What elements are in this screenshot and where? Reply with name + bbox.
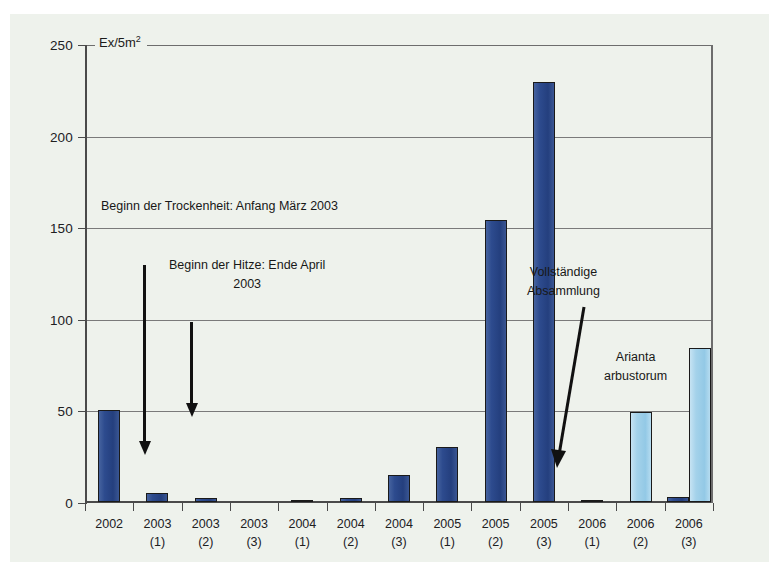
annotation-absammlung: Vollständige Absammlung (527, 263, 600, 302)
bar-2006(1)-dark-blue-series (581, 500, 603, 502)
x-tick-5 (327, 503, 328, 511)
x-label-replicate: (2) (337, 533, 365, 551)
x-label-replicate: (2) (482, 533, 510, 551)
annotation-hitze: Beginn der Hitze: Ende April 2003 (169, 256, 325, 295)
x-tick-label-2005(3): 2005(3) (530, 515, 558, 551)
x-tick-label-2006(3): 2006(3) (675, 515, 703, 551)
x-label-year: 2005 (482, 517, 510, 531)
bar-2003(1)-dark-blue-series (146, 493, 168, 502)
x-label-year: 2003 (144, 517, 172, 531)
y-tick-label-150: 150 (50, 221, 73, 236)
x-label-year: 2003 (240, 517, 268, 531)
x-tick-3 (230, 503, 231, 511)
bar-2004(1)-dark-blue-series (291, 500, 313, 502)
x-label-replicate: (3) (385, 533, 413, 551)
y-axis-units-exponent: 2 (136, 34, 141, 44)
arrow-hitze-icon (190, 322, 193, 404)
y-tick-label-250: 250 (50, 38, 73, 53)
plot-area: 050100150200250 Ex/5m2 20022003(1)2003(2… (85, 45, 713, 503)
x-label-replicate: (3) (240, 533, 268, 551)
x-label-year: 2003 (192, 517, 220, 531)
annotation-trockenheit: Beginn der Trockenheit: Anfang März 2003 (101, 197, 338, 216)
x-label-year: 2005 (433, 517, 461, 531)
x-tick-label-2003(3): 2003(3) (240, 515, 268, 551)
x-tick-4 (278, 503, 279, 511)
x-label-year: 2005 (530, 517, 558, 531)
x-label-replicate: (1) (433, 533, 461, 551)
x-tick-label-2006(1): 2006(1) (578, 515, 606, 551)
y-tick-label-200: 200 (50, 129, 73, 144)
x-label-replicate: (3) (530, 533, 558, 551)
gridline-200 (85, 137, 713, 138)
x-label-replicate: (1) (144, 533, 172, 551)
bar-2003(2)-dark-blue-series (195, 498, 217, 502)
x-tick-label-2005(2): 2005(2) (482, 515, 510, 551)
x-label-year: 2002 (95, 517, 123, 531)
x-label-year: 2004 (385, 517, 413, 531)
x-label-year: 2004 (288, 517, 316, 531)
gridline-250 (85, 45, 713, 46)
x-tick-9 (520, 503, 521, 511)
bar-2006(2)-arianta-arbustorum (630, 412, 652, 502)
x-tick-label-2003(2): 2003(2) (192, 515, 220, 551)
paper-edge-left (0, 0, 10, 572)
x-tick-10 (568, 503, 569, 511)
x-label-year: 2004 (337, 517, 365, 531)
x-label-replicate: (2) (192, 533, 220, 551)
paper-edge-top (0, 0, 779, 14)
x-label-replicate: (3) (675, 533, 703, 551)
x-label-year: 2006 (578, 517, 606, 531)
y-axis-units-text: Ex/5m (99, 35, 136, 50)
y-tick-label-0: 0 (65, 496, 73, 511)
x-tick-6 (375, 503, 376, 511)
y-tick-label-50: 50 (58, 404, 73, 419)
x-label-replicate: (2) (627, 533, 655, 551)
x-tick-label-2004(3): 2004(3) (385, 515, 413, 551)
x-tick-label-2004(2): 2004(2) (337, 515, 365, 551)
bar-2002-dark-blue-series (98, 410, 120, 502)
y-axis-line (85, 45, 87, 503)
plot-right-frame (711, 45, 713, 503)
y-tick-label-100: 100 (50, 312, 73, 327)
arrow-trockenheit-icon (143, 265, 146, 442)
x-tick-8 (471, 503, 472, 511)
gridline-50 (85, 411, 713, 412)
bar-2004(3)-dark-blue-series (388, 475, 410, 502)
chart-page: 050100150200250 Ex/5m2 20022003(1)2003(2… (0, 0, 779, 572)
paper-edge-bottom (0, 562, 779, 572)
x-tick-0 (85, 503, 86, 511)
x-tick-label-2004(1): 2004(1) (288, 515, 316, 551)
x-label-replicate: (1) (578, 533, 606, 551)
bar-2005(2)-dark-blue-series (485, 220, 507, 502)
x-tick-12 (665, 503, 666, 511)
x-tick-7 (423, 503, 424, 511)
x-tick-label-2003(1): 2003(1) (144, 515, 172, 551)
x-tick-2 (182, 503, 183, 511)
y-axis-units-label: Ex/5m2 (95, 34, 147, 50)
gridline-150 (85, 228, 713, 229)
gridline-100 (85, 320, 713, 321)
bar-2005(1)-dark-blue-series (436, 447, 458, 502)
x-label-replicate: (1) (288, 533, 316, 551)
paper-edge-right (769, 0, 779, 572)
bar-2006(3)-arianta-arbustorum (689, 348, 711, 502)
x-tick-label-2005(1): 2005(1) (433, 515, 461, 551)
x-label-year: 2006 (627, 517, 655, 531)
annotation-arianta: Arianta arbustorum (604, 348, 667, 387)
x-tick-11 (616, 503, 617, 511)
x-tick-1 (133, 503, 134, 511)
x-label-year: 2006 (675, 517, 703, 531)
x-tick-label-2002: 2002 (95, 515, 123, 533)
x-tick-13 (713, 503, 714, 511)
x-tick-label-2006(2): 2006(2) (627, 515, 655, 551)
bar-2006(3)-dark-blue-series (667, 497, 689, 502)
bar-2004(2)-dark-blue-series (340, 498, 362, 502)
